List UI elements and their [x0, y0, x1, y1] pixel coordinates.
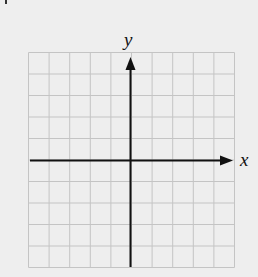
y-axis-arrow-icon [126, 57, 136, 70]
coordinate-plane: y x [0, 0, 258, 277]
y-axis [126, 57, 136, 267]
x-axis-label: x [240, 150, 248, 169]
x-axis-arrow-icon [220, 156, 233, 166]
y-axis-label: y [124, 30, 132, 49]
